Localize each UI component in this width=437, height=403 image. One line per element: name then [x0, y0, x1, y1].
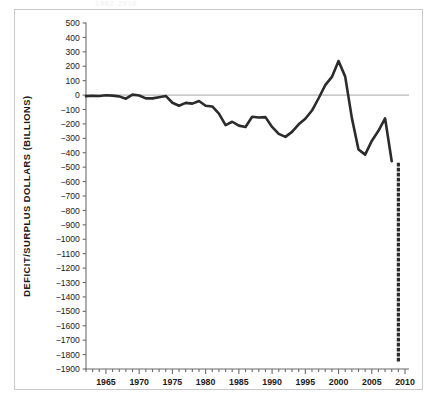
y-tick-label: −1900 — [56, 364, 80, 374]
x-tick-label: 1995 — [296, 377, 316, 387]
y-tick-label: −500 — [60, 162, 80, 172]
x-tick-label: 1990 — [262, 377, 282, 387]
y-tick-label: 300 — [65, 47, 80, 57]
y-tick-label: −1200 — [56, 263, 80, 273]
y-tick-label: 200 — [65, 61, 80, 71]
y-tick-label: 100 — [65, 76, 80, 86]
x-tick-label: 2010 — [395, 377, 415, 387]
x-tick-label: 2005 — [362, 377, 382, 387]
x-tick-label: 1980 — [196, 377, 216, 387]
y-tick-label: −700 — [60, 191, 80, 201]
y-axis: 5004003002001000−100−200−300−400−500−600… — [56, 18, 86, 374]
x-tick-label: 1965 — [96, 377, 116, 387]
x-axis: 1965197019751980198519901995200020052010 — [86, 369, 415, 387]
data-line — [86, 61, 392, 161]
y-tick-label: −300 — [60, 133, 80, 143]
y-tick-label: −1100 — [56, 249, 80, 259]
y-tick-label: −1700 — [56, 335, 80, 345]
line-chart-svg: 5004003002001000−100−200−300−400−500−600… — [0, 0, 437, 403]
plot-area: 5004003002001000−100−200−300−400−500−600… — [0, 0, 437, 403]
x-tick-label: 1975 — [163, 377, 183, 387]
y-tick-label: −900 — [60, 220, 80, 230]
x-tick-label: 2000 — [329, 377, 349, 387]
y-tick-label: −1000 — [56, 234, 80, 244]
y-tick-label: −600 — [60, 177, 80, 187]
y-tick-label: −200 — [60, 119, 80, 129]
x-tick-label: 1985 — [229, 377, 249, 387]
y-tick-label: 500 — [65, 18, 80, 28]
y-tick-label: −1400 — [56, 292, 80, 302]
y-axis-title: DEFICIT/SURPLUS DOLLARS (BILLIONS) — [22, 95, 32, 297]
y-tick-label: −1500 — [56, 306, 80, 316]
y-tick-label: −100 — [60, 105, 80, 115]
chart-figure: 1962-2010 5004003002001000−100−200−300−4… — [0, 0, 437, 403]
y-tick-label: 400 — [65, 33, 80, 43]
y-tick-label: −1300 — [56, 278, 80, 288]
data-series — [86, 61, 398, 362]
y-tick-label: 0 — [75, 90, 80, 100]
y-tick-label: −800 — [60, 206, 80, 216]
y-tick-label: −1800 — [56, 350, 80, 360]
y-tick-label: −1600 — [56, 321, 80, 331]
x-tick-label: 1970 — [129, 377, 149, 387]
y-tick-label: −400 — [60, 148, 80, 158]
y-axis-title-text: DEFICIT/SURPLUS DOLLARS (BILLIONS) — [22, 95, 32, 297]
